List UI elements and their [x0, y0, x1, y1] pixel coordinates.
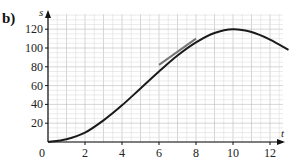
svg-text:120: 120 — [25, 22, 43, 36]
svg-text:6: 6 — [156, 146, 162, 160]
x-axis-label: t — [281, 127, 285, 139]
svg-text:60: 60 — [31, 79, 43, 93]
svg-text:20: 20 — [31, 116, 43, 130]
svg-text:2: 2 — [82, 146, 88, 160]
y-axis-label: s — [39, 6, 43, 18]
svg-text:40: 40 — [31, 97, 43, 111]
svg-text:100: 100 — [25, 41, 43, 55]
origin-label: 0 — [39, 146, 45, 160]
svg-text:4: 4 — [119, 146, 125, 160]
svg-text:12: 12 — [264, 146, 276, 160]
svg-text:10: 10 — [227, 146, 239, 160]
axes — [45, 10, 285, 145]
svg-text:8: 8 — [193, 146, 199, 160]
svg-text:80: 80 — [31, 60, 43, 74]
grid — [48, 14, 283, 142]
distance-time-chart: 2468101220406080100120 s t 0 — [0, 0, 289, 163]
